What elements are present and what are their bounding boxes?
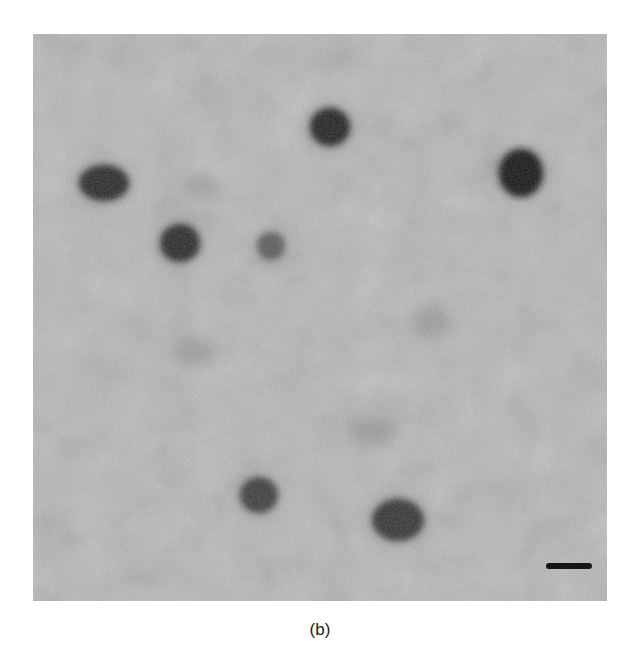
micrograph-image <box>33 34 607 601</box>
figure: (b) <box>0 0 640 661</box>
scale-bar <box>546 563 592 569</box>
figure-caption: (b) <box>0 620 640 640</box>
micrograph-panel <box>33 34 607 601</box>
